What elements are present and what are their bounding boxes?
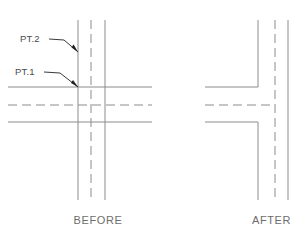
annotation-pt1-leader-line <box>44 72 78 87</box>
annotation-pt2: PT.2 <box>20 33 78 52</box>
panel-after: AFTER <box>205 20 291 226</box>
caption-after: AFTER <box>252 214 291 226</box>
panel-before: BEFORE <box>8 20 152 226</box>
after-trimmed-edges <box>205 20 258 200</box>
annotation-pt1-arrowhead <box>71 80 78 87</box>
technical-drawing-canvas: BEFORE AFTER PT.2 PT.1 <box>0 0 308 245</box>
diagram-page: BEFORE AFTER PT.2 PT.1 <box>0 0 308 245</box>
annotation-pt2-arrowhead <box>72 45 79 52</box>
after-trimmed-edge-bottom <box>205 122 258 200</box>
before-vertical-edges <box>78 20 105 200</box>
annotation-pt1-label: PT.1 <box>15 66 35 77</box>
annotation-pt2-label: PT.2 <box>20 33 40 44</box>
before-horizontal-edges <box>8 87 152 122</box>
after-trimmed-edge-top <box>205 20 258 87</box>
caption-before: BEFORE <box>74 214 123 226</box>
annotation-pt1: PT.1 <box>15 66 78 87</box>
